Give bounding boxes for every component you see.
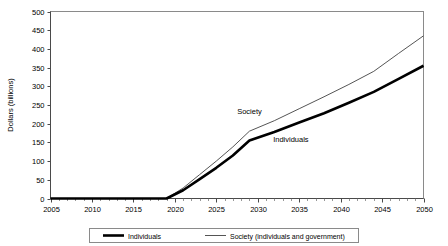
y-tick-label-150: 150: [32, 138, 45, 147]
x-tick-label-2030: 2030: [250, 205, 267, 214]
series-line-society-individuals-and-government: [51, 36, 424, 199]
y-tick-label-200: 200: [32, 120, 45, 129]
annotation-society: Society: [237, 107, 262, 116]
annotation-individuals: Individuals: [273, 135, 309, 144]
x-tick-label-2035: 2035: [291, 205, 308, 214]
chart-figure: 050100150200250300350400450500 200520102…: [0, 0, 448, 246]
x-axis-tick-labels: 2005201020152020202520302035204020452050: [43, 205, 433, 214]
plot-area-frame: [51, 12, 424, 199]
chart-svg: 050100150200250300350400450500 200520102…: [0, 0, 448, 246]
series-line-individuals: [51, 66, 424, 199]
y-tick-label-250: 250: [32, 101, 45, 110]
legend-label-society: Society (individuals and government): [230, 233, 345, 241]
y-axis-tick-labels: 050100150200250300350400450500: [32, 8, 45, 204]
legend-label-individuals: Individuals: [128, 233, 162, 240]
x-tick-label-2020: 2020: [167, 205, 184, 214]
x-tick-label-2050: 2050: [416, 205, 433, 214]
x-tick-label-2045: 2045: [374, 205, 391, 214]
x-tick-label-2040: 2040: [333, 205, 350, 214]
y-tick-label-300: 300: [32, 82, 45, 91]
y-tick-label-400: 400: [32, 45, 45, 54]
series-annotations: SocietyIndividuals: [237, 107, 309, 144]
y-tick-label-0: 0: [40, 195, 44, 204]
y-tick-label-450: 450: [32, 26, 45, 35]
data-series-layer: [51, 36, 424, 199]
x-tick-label-2025: 2025: [208, 205, 225, 214]
y-tick-label-500: 500: [32, 8, 45, 17]
y-tick-label-350: 350: [32, 64, 45, 73]
y-tick-label-50: 50: [36, 176, 44, 185]
x-tick-label-2015: 2015: [125, 205, 142, 214]
x-tick-label-2010: 2010: [84, 205, 101, 214]
x-tick-label-2005: 2005: [43, 205, 60, 214]
y-axis-title: Dollars (billions): [6, 78, 15, 132]
y-tick-label-100: 100: [32, 157, 45, 166]
chart-legend: Individuals Society (individuals and gov…: [90, 229, 359, 243]
